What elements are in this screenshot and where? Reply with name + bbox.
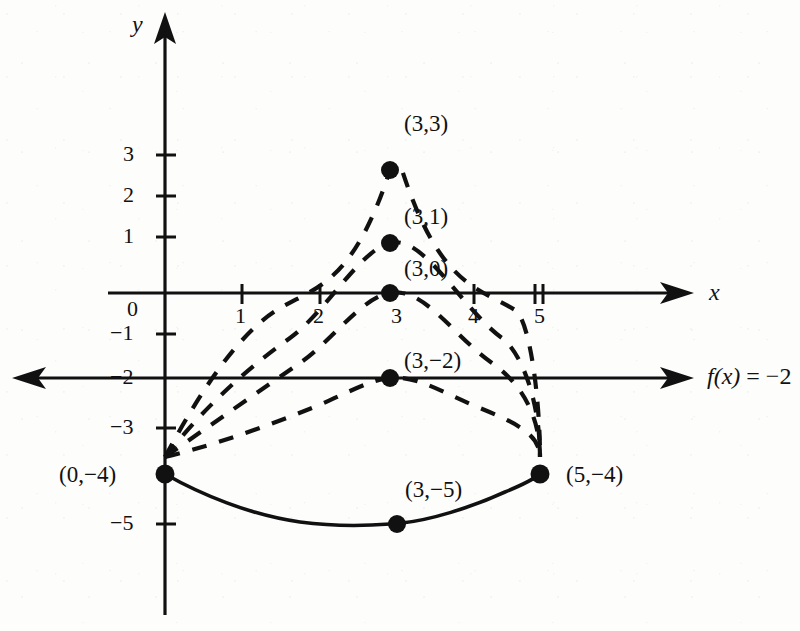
y-axis-name-label: y — [132, 12, 143, 36]
x-tick-label-4: 4 — [468, 305, 479, 327]
point-label-0-neg4: (0,−4) — [59, 463, 116, 486]
parabola-vertex-3-0 — [165, 292, 540, 457]
y-axis-group — [154, 12, 176, 615]
y-tick-label-neg5: −5 — [110, 512, 133, 534]
y-tick-label-3: 3 — [123, 143, 134, 165]
parabola-vertex-3-3 — [165, 166, 540, 457]
datapoint-5-neg4 — [531, 465, 550, 484]
parabola-vertex-3-neg5 — [165, 474, 540, 525]
datapoint-3-1 — [381, 234, 399, 252]
datapoint-3-neg2 — [381, 369, 399, 387]
datapoint-3-neg5 — [388, 515, 406, 533]
reference-line-label-f: f — [707, 363, 714, 389]
y-tick-label-neg2: −2 — [110, 366, 133, 388]
x-tick-label-5: 5 — [534, 305, 545, 327]
reference-line-label-arg: (x) — [714, 363, 741, 389]
datapoint-3-0 — [381, 284, 399, 302]
x-tick-label-1: 1 — [235, 305, 246, 327]
datapoint-0-neg4 — [156, 465, 175, 484]
y-tick-label-neg1: −1 — [110, 322, 133, 344]
point-label-5-neg4: (5,−4) — [566, 463, 623, 486]
x-tick-label-3: 3 — [391, 305, 402, 327]
y-tick-label-1: 1 — [123, 225, 134, 247]
y-tick-label-2: 2 — [123, 184, 134, 206]
y-tick-label-0: 0 — [127, 298, 138, 320]
point-label-3-0: (3,0) — [404, 257, 448, 280]
graph-figure: y x 3 2 1 0 −1 −2 −3 −5 1 2 3 4 5 (3,3) … — [0, 0, 800, 631]
parabola-vertex-3-1 — [165, 242, 540, 457]
point-label-3-neg2: (3,−2) — [404, 349, 461, 372]
datapoint-3-3 — [381, 161, 399, 179]
point-label-3-3: (3,3) — [404, 112, 448, 135]
y-tick-label-neg3: −3 — [110, 416, 133, 438]
point-label-3-neg5: (3,−5) — [405, 478, 462, 501]
reference-line-label: f(x) = −2 — [707, 364, 791, 388]
x-axis-name-label: x — [709, 280, 720, 304]
point-label-3-1: (3,1) — [404, 205, 448, 228]
x-tick-label-2: 2 — [313, 305, 324, 327]
reference-line-label-value: = −2 — [740, 363, 791, 389]
